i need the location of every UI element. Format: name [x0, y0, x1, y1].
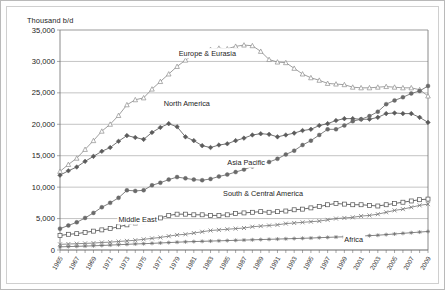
data-point-marker: [301, 143, 305, 147]
data-point-marker: [284, 237, 288, 241]
data-point-marker: [284, 152, 288, 156]
data-point-marker: [401, 231, 405, 235]
data-point-marker: [66, 232, 70, 236]
y-tick-label: 15,000: [32, 151, 55, 160]
x-tick-label: 1981: [184, 255, 197, 271]
data-point-marker: [309, 206, 313, 210]
data-point-marker: [384, 203, 388, 207]
series-line: [60, 45, 428, 171]
data-point-marker: [75, 220, 79, 224]
data-point-marker: [83, 244, 87, 248]
data-point-marker: [200, 178, 204, 182]
data-point-marker: [125, 242, 129, 246]
data-point-marker: [100, 205, 104, 209]
data-point-marker: [292, 237, 296, 241]
data-point-marker: [325, 121, 330, 126]
data-point-marker: [175, 240, 179, 244]
data-point-marker: [259, 238, 263, 242]
data-point-marker: [250, 238, 254, 242]
data-point-marker: [401, 95, 405, 99]
data-point-marker: [284, 209, 288, 213]
data-point-marker: [83, 230, 87, 234]
x-tick-label: 1979: [168, 255, 181, 271]
data-point-marker: [359, 203, 363, 207]
data-point-marker: [418, 198, 422, 202]
data-point-marker: [225, 239, 229, 243]
data-point-marker: [301, 236, 305, 240]
data-point-marker: [258, 49, 263, 53]
data-point-marker: [125, 188, 129, 192]
data-point-marker: [367, 234, 371, 238]
data-point-marker: [309, 139, 313, 143]
y-tick-label: 20,000: [32, 120, 55, 129]
data-point-marker: [426, 84, 430, 88]
data-point-marker: [267, 210, 271, 214]
series-label: Europe & Eurasia: [179, 49, 237, 58]
data-point-marker: [183, 212, 187, 216]
data-point-marker: [66, 169, 71, 174]
data-point-marker: [267, 237, 271, 241]
data-point-marker: [292, 149, 296, 153]
data-point-marker: [426, 197, 430, 201]
data-point-marker: [158, 125, 163, 130]
data-point-marker: [209, 213, 213, 217]
data-point-marker: [259, 210, 263, 214]
data-point-marker: [292, 66, 297, 70]
data-point-marker: [75, 232, 79, 236]
data-point-marker: [91, 229, 95, 233]
data-point-marker: [376, 115, 381, 120]
data-point-marker: [158, 216, 162, 220]
data-point-marker: [158, 181, 162, 185]
data-point-marker: [74, 165, 79, 170]
x-tick-label: 1993: [285, 255, 298, 271]
data-point-marker: [133, 189, 137, 193]
data-point-marker: [376, 233, 380, 237]
data-point-marker: [209, 177, 213, 181]
chart-svg: 05,00010,00015,00020,00025,00030,00035,0…: [7, 7, 440, 285]
data-point-marker: [200, 143, 205, 148]
x-tick-label: 1969: [84, 255, 97, 271]
data-point-marker: [100, 243, 104, 247]
data-point-marker: [192, 213, 196, 217]
series-label: North America: [164, 99, 211, 108]
data-point-marker: [392, 111, 397, 116]
data-point-marker: [117, 196, 121, 200]
data-point-marker: [300, 72, 305, 76]
data-point-marker: [242, 211, 246, 215]
data-point-marker: [342, 202, 346, 206]
data-point-marker: [58, 234, 62, 238]
series-label: Africa: [344, 235, 364, 244]
x-tick-label: 1967: [67, 255, 80, 271]
data-point-marker: [376, 204, 380, 208]
data-point-marker: [309, 127, 314, 132]
data-point-marker: [334, 127, 338, 131]
data-point-marker: [317, 205, 321, 209]
data-point-marker: [267, 132, 272, 137]
data-point-marker: [167, 178, 171, 182]
x-tick-label: 2005: [385, 255, 398, 271]
data-point-marker: [342, 124, 346, 128]
data-point-marker: [376, 110, 380, 114]
data-point-marker: [384, 102, 388, 106]
x-tick-label: 1991: [268, 255, 281, 271]
data-point-marker: [393, 232, 397, 236]
data-point-marker: [309, 75, 314, 79]
data-point-marker: [409, 111, 414, 116]
data-point-marker: [225, 141, 230, 146]
data-point-marker: [100, 149, 105, 154]
series-europe-eurasia: [58, 43, 431, 174]
data-point-marker: [225, 213, 229, 217]
data-point-marker: [351, 203, 355, 207]
data-point-marker: [326, 127, 330, 131]
data-point-marker: [275, 237, 279, 241]
data-point-marker: [208, 145, 213, 150]
data-point-marker: [192, 178, 196, 182]
data-point-marker: [401, 200, 405, 204]
x-tick-label: 1973: [117, 255, 130, 271]
data-point-marker: [175, 212, 179, 216]
data-point-marker: [200, 213, 204, 217]
data-point-marker: [334, 118, 339, 123]
data-point-marker: [100, 228, 104, 232]
data-point-marker: [125, 102, 130, 106]
data-point-marker: [166, 121, 171, 126]
